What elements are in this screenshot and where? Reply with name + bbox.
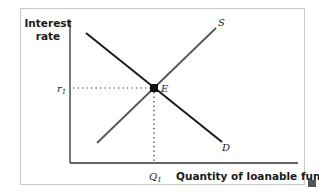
x-axis-label: Quantity of loanable funds (176, 170, 319, 182)
equilibrium-label: E (160, 83, 169, 94)
y-axis-label-line1: Interest (24, 17, 71, 29)
q1-label: Q1 (149, 171, 162, 184)
demand-label: D (221, 142, 230, 153)
corner-marker (308, 180, 316, 187)
y-axis-label-line2: rate (36, 30, 60, 42)
equilibrium-point (150, 84, 158, 92)
loanable-funds-diagram: Interest rate S D E r1 Q1 Quantity of lo… (0, 0, 319, 194)
supply-label: S (218, 17, 225, 28)
r1-label: r1 (57, 83, 66, 96)
